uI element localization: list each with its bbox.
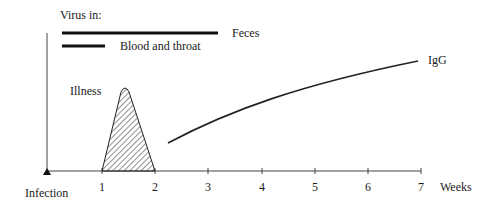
- diagram-title: Virus in:: [60, 9, 102, 21]
- weeks-label: Weeks: [440, 181, 472, 193]
- tick-label-3: 3: [205, 181, 211, 193]
- infection-label: Infection: [25, 187, 68, 199]
- igg-label: IgG: [428, 54, 447, 66]
- illness-peak: [102, 88, 155, 171]
- illness-label: Illness: [70, 85, 101, 97]
- tick-label-6: 6: [365, 181, 371, 193]
- tick-label-1: 1: [99, 181, 105, 193]
- tick-label-7: 7: [418, 181, 424, 193]
- tick-label-4: 4: [259, 181, 265, 193]
- tick-label-2: 2: [152, 181, 158, 193]
- blood-throat-label: Blood and throat: [120, 40, 201, 52]
- igg-curve: [168, 61, 418, 143]
- feces-label: Feces: [232, 27, 259, 39]
- tick-label-5: 5: [312, 181, 318, 193]
